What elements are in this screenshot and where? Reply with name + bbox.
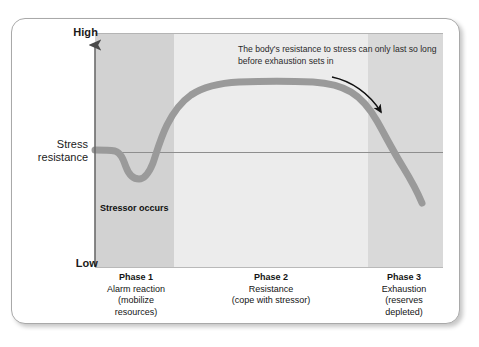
phase-1-name: Alarm reaction [88, 284, 184, 296]
y-axis-low-label: Low [50, 257, 98, 269]
phase-1-detail-2: resources) [88, 307, 184, 319]
annotation-text: The body's resistance to stress can only… [238, 44, 442, 67]
stress-response-figure: High Low Stress resistance The body's re… [0, 0, 479, 347]
stressor-occurs-label: Stressor occurs [100, 203, 169, 213]
phase-2-name: Resistance [186, 284, 356, 296]
y-axis-high-label: High [50, 26, 98, 38]
phase-2-detail-1: (cope with stressor) [186, 295, 356, 307]
phase-caption-2: Phase 2 Resistance (cope with stressor) [186, 272, 356, 307]
phase-caption-3: Phase 3 Exhaustion (reserves depleted) [358, 272, 450, 318]
plot-area [95, 33, 443, 268]
phase-caption-1: Phase 1 Alarm reaction (mobilize resourc… [88, 272, 184, 318]
phase-3-name: Exhaustion [358, 284, 450, 296]
phase-3-title: Phase 3 [358, 272, 450, 284]
phase-3-detail-2: depleted) [358, 307, 450, 319]
phase-3-detail-1: (reserves [358, 295, 450, 307]
phase-2-title: Phase 2 [186, 272, 356, 284]
phase-1-title: Phase 1 [88, 272, 184, 284]
phase-1-detail-1: (mobilize [88, 295, 184, 307]
y-axis-title: Stress resistance [12, 138, 88, 164]
annotation-arrow-icon [95, 33, 443, 268]
